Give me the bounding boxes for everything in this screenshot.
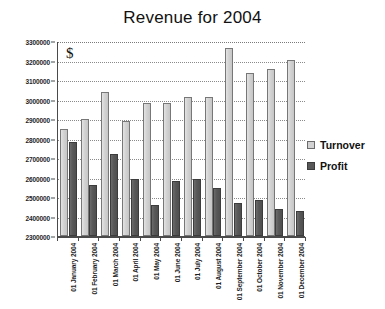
x-axis: 01 January 200401 February 200401 March … [57,243,305,307]
y-tick-label: 2900000 [25,117,50,124]
legend-label: Turnover [320,139,365,151]
bar-turnover [246,73,254,236]
x-axis-ticks [57,237,305,242]
x-tick-label: 01 November 2004 [277,243,284,299]
x-tick-mark [57,237,58,241]
chart-legend: TurnoverProfit [307,139,385,181]
legend-item-turnover[interactable]: Turnover [307,139,385,151]
bar-profit [213,188,221,236]
x-tick-label: 01 May 2004 [153,243,160,280]
x-tick-mark [160,237,161,241]
x-tick-label: 01 January 2004 [70,243,77,292]
x-tick-label: 01 December 2004 [298,243,305,298]
bar-group [184,42,201,236]
bar-turnover [122,121,130,236]
bar-turnover [205,97,213,236]
y-tick-label: 3300000 [25,39,50,46]
x-tick-mark [284,237,285,241]
bars-layer [58,42,305,236]
y-tick-label: 3000000 [25,97,50,104]
bar-profit [89,185,97,236]
bar-turnover [225,48,233,236]
bar-group [143,42,160,236]
bar-profit [151,205,159,236]
y-tick-label: 3200000 [25,58,50,65]
bar-group [101,42,118,236]
y-tick-mark [51,198,55,199]
bar-group [205,42,222,236]
x-tick-mark [202,237,203,241]
bar-turnover [60,129,68,236]
bar-turnover [81,119,89,236]
x-tick-mark [119,237,120,241]
x-tick-label: 01 June 2004 [174,243,181,282]
x-tick-label: 01 August 2004 [215,243,222,289]
x-tick-label: 01 April 2004 [132,243,139,282]
legend-label: Profit [320,160,347,172]
bar-turnover [101,92,109,236]
bar-group [60,42,77,236]
y-tick-mark [51,139,55,140]
bar-turnover [143,103,151,236]
y-tick-label: 2600000 [25,175,50,182]
bar-profit [193,179,201,236]
bar-group [267,42,284,236]
y-tick-mark [51,159,55,160]
y-tick-label: 2800000 [25,136,50,143]
x-tick-label: 01 September 2004 [236,243,243,300]
x-tick-mark [181,237,182,241]
legend-swatch-icon [307,162,315,170]
x-tick-mark [98,237,99,241]
bar-turnover [287,60,295,236]
bar-group [225,42,242,236]
revenue-bar-chart: Revenue for 2004 33000003200000310000030… [0,0,385,309]
y-tick-label: 2300000 [25,234,50,241]
y-tick-mark [51,81,55,82]
bar-profit [110,154,118,236]
y-tick-mark [51,217,55,218]
y-tick-mark [51,237,55,238]
x-tick-label: 01 October 2004 [256,243,263,292]
plot-area [57,42,305,237]
y-tick-label: 2700000 [25,156,50,163]
x-tick-mark [264,237,265,241]
legend-swatch-icon [307,141,315,149]
x-tick-mark [140,237,141,241]
x-tick-mark [222,237,223,241]
bar-group [81,42,98,236]
bar-profit [296,211,304,236]
chart-title: Revenue for 2004 [0,8,385,28]
bar-turnover [163,103,171,236]
bar-profit [234,203,242,236]
y-tick-mark [51,178,55,179]
bar-profit [255,200,263,236]
y-tick-label: 3100000 [25,78,50,85]
bar-profit [69,142,77,236]
bar-group [246,42,263,236]
y-tick-label: 2500000 [25,195,50,202]
bar-profit [275,209,283,236]
y-tick-mark [51,61,55,62]
bar-group [287,42,304,236]
x-tick-label: 01 July 2004 [194,243,201,280]
x-tick-mark [243,237,244,241]
bar-turnover [267,69,275,236]
y-axis: 3300000320000031000003000000290000028000… [0,42,55,237]
x-tick-label: 01 February 2004 [91,243,98,295]
x-tick-label: 01 March 2004 [112,243,119,286]
bar-profit [131,179,139,236]
y-tick-mark [51,100,55,101]
y-tick-mark [51,120,55,121]
bar-group [122,42,139,236]
bar-turnover [184,97,192,236]
y-tick-mark [51,42,55,43]
x-tick-mark [305,237,306,241]
bar-group [163,42,180,236]
y-tick-label: 2400000 [25,214,50,221]
x-tick-mark [78,237,79,241]
legend-item-profit[interactable]: Profit [307,160,385,172]
bar-profit [172,181,180,236]
